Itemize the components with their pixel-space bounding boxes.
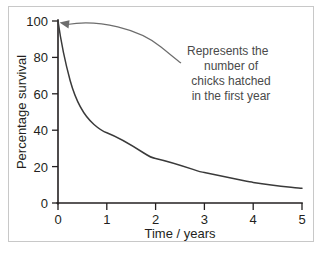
y-axis-title: Percentage survival [14,55,29,169]
callout-leader-line [67,23,181,63]
x-axis-tick-labels: 0 1 2 3 4 5 [54,212,305,227]
y-tick-label-20: 20 [34,160,48,175]
x-tick-label-1: 1 [103,212,110,227]
y-tick-label-100: 100 [26,14,48,29]
x-tick-label-0: 0 [54,212,61,227]
x-tick-label-2: 2 [152,212,159,227]
x-axis-title: Time / years [144,226,216,241]
callout-line-1: Represents the [187,44,269,58]
y-axis-ticks [52,21,58,203]
y-tick-label-80: 80 [34,50,48,65]
figure-frame: 0 20 40 60 80 100 0 1 2 3 4 5 Time / yea… [8,6,314,242]
x-tick-label-3: 3 [201,212,208,227]
x-tick-label-5: 5 [298,212,305,227]
callout-line-2: number of [204,59,259,73]
callout-line-3: chicks hatched [191,74,270,88]
callout-line-4: in the first year [192,89,271,103]
x-axis-ticks [58,203,302,210]
y-axis-tick-labels: 0 20 40 60 80 100 [26,14,48,211]
y-tick-label-0: 0 [41,196,48,211]
y-tick-label-60: 60 [34,87,48,102]
y-tick-label-40: 40 [34,123,48,138]
survivorship-curve-chart: 0 20 40 60 80 100 0 1 2 3 4 5 Time / yea… [9,7,313,241]
x-tick-label-4: 4 [250,212,257,227]
callout-text-block: Represents the number of chicks hatched … [187,44,271,103]
callout-arrowhead-icon [60,20,70,28]
